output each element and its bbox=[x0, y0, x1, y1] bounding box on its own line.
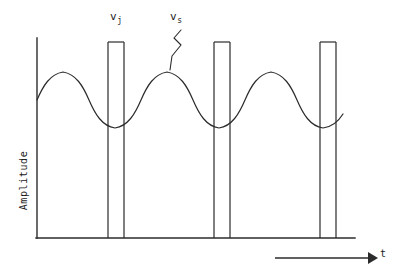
pulse-rect-2 bbox=[214, 42, 230, 238]
label-vj: vj bbox=[110, 11, 121, 22]
label-vj-symbol: v bbox=[110, 10, 117, 23]
waveform-figure: vj vs t Amplitude bbox=[0, 0, 397, 273]
sine-wave-vs bbox=[37, 72, 343, 128]
label-vs: vs bbox=[170, 11, 181, 22]
label-vs-symbol: v bbox=[170, 10, 177, 23]
y-axis-label: Amplitude bbox=[18, 146, 29, 216]
pulse-rect-3 bbox=[320, 42, 336, 238]
label-vs-subscript: s bbox=[177, 16, 182, 25]
vs-leader-zigzag bbox=[170, 30, 181, 70]
arrow-right-icon bbox=[368, 252, 378, 264]
x-axis-label: t bbox=[380, 249, 386, 259]
label-vj-subscript: j bbox=[117, 16, 122, 25]
figure-canvas bbox=[0, 0, 397, 273]
pulse-rect-1 bbox=[108, 42, 124, 238]
